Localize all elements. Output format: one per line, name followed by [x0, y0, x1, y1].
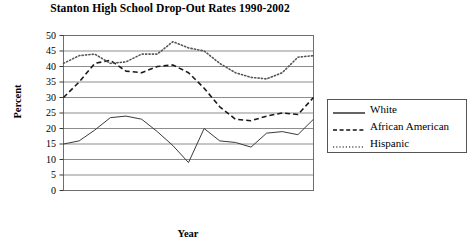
legend-swatch-dashed-icon — [332, 121, 366, 131]
series-line-african-american — [64, 60, 314, 120]
legend-label-white: White — [366, 103, 397, 115]
legend-label-african-american: African American — [366, 120, 449, 132]
y-axis-tick-marks — [60, 36, 64, 191]
series-line-white — [64, 116, 314, 163]
legend-item-white[interactable]: White — [328, 100, 466, 117]
gridlines — [64, 51, 314, 175]
legend-swatch-solid-icon — [332, 104, 366, 114]
chart-legend: White African American Hispanic — [327, 99, 467, 153]
legend-item-hispanic[interactable]: Hispanic — [328, 134, 466, 151]
legend-swatch-dotted-icon — [332, 138, 366, 148]
drop-out-rates-chart: Stanton High School Drop-Out Rates 1990-… — [0, 0, 472, 250]
legend-label-hispanic: Hispanic — [366, 137, 409, 149]
legend-item-african-american[interactable]: African American — [328, 117, 466, 134]
